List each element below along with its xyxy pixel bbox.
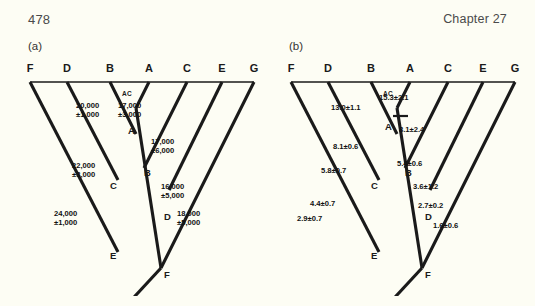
branch-value-6b: ±1,000 xyxy=(54,218,77,227)
branch-value-7b: ±5,000 xyxy=(177,218,200,227)
branch-value-5a: 16,000 xyxy=(161,182,184,191)
phylogenetic-tree-a: F D B A C E G AC A B C D xyxy=(14,56,266,296)
branch-value-2: 15.3±2.1 xyxy=(379,93,409,102)
branch-ac-stub-left xyxy=(371,82,379,98)
tip-label-f: F xyxy=(288,62,295,74)
branch-value-9: 2.7±0.2 xyxy=(418,201,443,210)
figure-panel-b: (b) F D B A C E G AC A B xyxy=(275,36,527,298)
chapter-header: Chapter 27 xyxy=(443,12,507,26)
tip-label-e: E xyxy=(218,62,225,74)
panel-a-label: (a) xyxy=(28,40,42,52)
tip-label-a: A xyxy=(406,62,414,74)
branch-value-10: 2.9±0.7 xyxy=(297,214,322,223)
branch-value-7: 3.6±1.2 xyxy=(413,182,438,191)
branch-value-5: 5.4±0.6 xyxy=(397,159,422,168)
node-label-ac: AC xyxy=(122,90,132,97)
page-number: 478 xyxy=(28,12,50,27)
tip-label-c: C xyxy=(183,62,191,74)
panel-b-label: (b) xyxy=(289,40,303,52)
branch-value-1a: 20,000 xyxy=(76,101,99,110)
tip-label-e: E xyxy=(479,62,486,74)
node-label-a: A xyxy=(385,121,392,132)
node-label-f: F xyxy=(164,269,170,280)
tip-label-c: C xyxy=(444,62,452,74)
node-label-e: E xyxy=(110,250,116,261)
branch-e-to-d xyxy=(169,82,222,190)
branch-value-8: 4.4±0.7 xyxy=(310,199,335,208)
branch-value-3b: ±6,000 xyxy=(151,146,174,155)
branch-value-1: 13.0±1.1 xyxy=(331,103,361,112)
branch-value-4: 8.1±0.6 xyxy=(333,142,358,151)
node-label-d: D xyxy=(425,211,432,222)
node-label-a: A xyxy=(128,125,135,136)
tip-label-g: G xyxy=(250,62,259,74)
branch-value-11: 1.6±0.6 xyxy=(433,221,458,230)
branch-c-to-b xyxy=(144,82,187,168)
tree-spine xyxy=(136,108,161,268)
branch-value-2b: ±3,000 xyxy=(118,110,141,119)
branch-root-g xyxy=(385,268,422,296)
branch-value-3: 8.1±2.4 xyxy=(399,125,425,134)
node-label-c: C xyxy=(371,180,378,191)
node-label-c: C xyxy=(110,180,117,191)
branch-value-7a: 18,000 xyxy=(177,209,200,218)
branch-value-2a: 17,000 xyxy=(118,101,141,110)
branch-value-1b: ±1,000 xyxy=(76,110,99,119)
node-label-e: E xyxy=(371,250,377,261)
branch-ac-stub-left xyxy=(110,82,118,98)
tip-label-a: A xyxy=(145,62,153,74)
branch-value-4b: ±3,000 xyxy=(72,170,95,179)
branch-value-6: 5.8±0.7 xyxy=(321,166,346,175)
tip-label-g: G xyxy=(511,62,520,74)
branch-e-to-d xyxy=(430,82,483,190)
node-label-b: B xyxy=(405,167,412,178)
branch-root-g xyxy=(124,268,161,296)
branch-value-5b: ±5,000 xyxy=(161,191,184,200)
node-label-f: F xyxy=(425,269,431,280)
tip-label-b: B xyxy=(106,62,114,74)
phylogenetic-tree-b: F D B A C E G AC A B C D E xyxy=(275,56,527,296)
branch-value-3a: 17,000 xyxy=(151,137,174,146)
tip-label-d: D xyxy=(324,62,332,74)
branch-value-4a: 22,000 xyxy=(72,161,95,170)
figure-panel-a: (a) F D B A C E G AC A xyxy=(14,36,266,298)
tip-label-d: D xyxy=(63,62,71,74)
tip-label-f: F xyxy=(27,62,34,74)
tip-label-b: B xyxy=(367,62,375,74)
book-page: 478 Chapter 27 (a) F D B A C E G xyxy=(0,0,535,306)
branch-value-6a: 24,000 xyxy=(54,209,77,218)
node-label-b: B xyxy=(144,167,151,178)
node-label-d: D xyxy=(164,211,171,222)
